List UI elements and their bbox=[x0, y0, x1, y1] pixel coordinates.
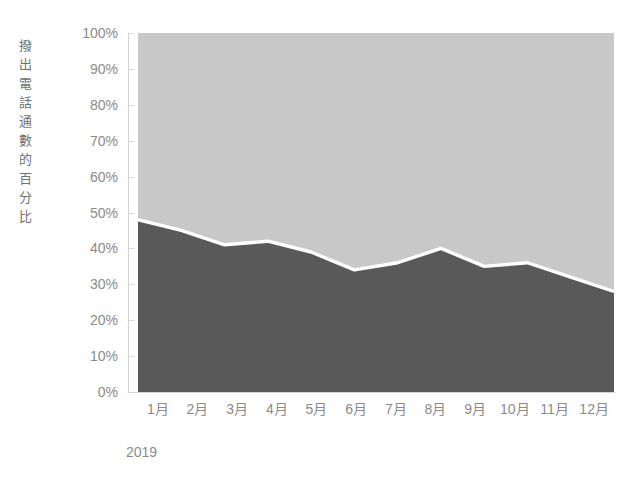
y-axis-tick-mark bbox=[129, 177, 134, 178]
y-axis-tick-label: 80% bbox=[66, 97, 118, 113]
y-axis-tick-label: 40% bbox=[66, 240, 118, 256]
y-axis-tick-mark bbox=[129, 356, 134, 357]
y-axis-tick-mark bbox=[129, 105, 134, 106]
y-axis-tick-label: 20% bbox=[66, 312, 118, 328]
y-axis-tick-mark bbox=[129, 213, 134, 214]
area-chart-svg bbox=[138, 33, 614, 392]
y-axis-tick-label: 30% bbox=[66, 276, 118, 292]
y-axis-tick-mark bbox=[129, 248, 134, 249]
y-axis-tick-label: 60% bbox=[66, 169, 118, 185]
y-axis-tick-mark bbox=[129, 320, 134, 321]
x-axis-group-label: 2019 bbox=[126, 444, 157, 460]
x-axis-line bbox=[128, 392, 615, 393]
y-axis-tick-label: 100% bbox=[66, 25, 118, 41]
y-axis-tick-mark bbox=[129, 33, 134, 34]
x-axis-tick-label: 8月 bbox=[425, 398, 447, 418]
x-axis-tick-label: 12月 bbox=[579, 398, 609, 418]
x-axis-tick-label: 9月 bbox=[464, 398, 486, 418]
y-axis-tick-mark bbox=[129, 284, 134, 285]
y-axis-tick-mark bbox=[129, 69, 134, 70]
x-axis-tick-label: 6月 bbox=[345, 398, 367, 418]
x-axis-tick-label: 4月 bbox=[266, 398, 288, 418]
y-axis-tick-label: 70% bbox=[66, 133, 118, 149]
plot-area bbox=[138, 33, 614, 392]
x-axis-tick-label: 10月 bbox=[500, 398, 530, 418]
x-axis-tick-labels: 1月2月3月4月5月6月7月8月9月10月11月12月 bbox=[128, 398, 625, 422]
x-axis-tick-label: 7月 bbox=[385, 398, 407, 418]
y-axis-title: 撥出電話通數的百分比 bbox=[14, 36, 36, 226]
y-axis-tick-label: 0% bbox=[66, 384, 118, 400]
x-axis-tick-label: 11月 bbox=[540, 398, 569, 418]
x-axis-tick-label: 5月 bbox=[306, 398, 328, 418]
x-axis-tick-label: 2月 bbox=[187, 398, 209, 418]
y-axis-tick-label: 50% bbox=[66, 205, 118, 221]
area-chart: 撥出電話通數的百分比 0%10%20%30%40%50%60%70%80%90%… bbox=[0, 0, 636, 481]
x-axis-tick-label: 3月 bbox=[226, 398, 248, 418]
y-axis-tick-labels: 0%10%20%30%40%50%60%70%80%90%100% bbox=[62, 0, 118, 481]
y-axis-tick-label: 90% bbox=[66, 61, 118, 77]
x-axis-tick-label: 1月 bbox=[147, 398, 169, 418]
y-axis-tick-mark bbox=[129, 141, 134, 142]
y-axis-tick-label: 10% bbox=[66, 348, 118, 364]
